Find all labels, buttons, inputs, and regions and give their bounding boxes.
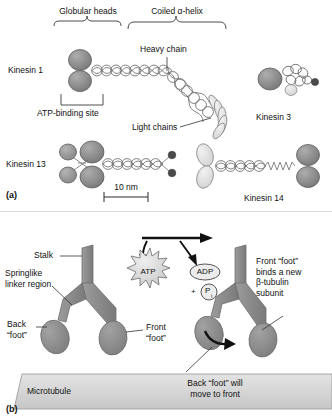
bracket-label-globular-heads: Globular heads: [48, 6, 128, 17]
kinesin-3-molecule: [258, 63, 319, 95]
annotation-springlike-linker-region: Springlike linker region: [5, 268, 51, 289]
kinesin-14-molecule: [194, 142, 320, 191]
reaction-arrow: [142, 233, 213, 243]
annotation-back-foot-will-move: Back “foot” will move to front: [160, 378, 270, 399]
scale-bar: [104, 192, 148, 202]
phosphate-prefix: +: [191, 287, 196, 298]
annotation-heavy-chain: Heavy chain: [140, 44, 187, 55]
kinesin-figure: Globular heads Coiled α-helix Kinesin 1 …: [0, 0, 332, 420]
molecule-label-kinesin-1: Kinesin 1: [8, 65, 43, 76]
annotation-front-foot-binds: Front “foot” binds a new β-tubulin subun…: [256, 256, 301, 298]
annotation-atp-binding-site: ATP-binding site: [37, 108, 99, 119]
phosphate-label: P: [205, 286, 210, 297]
panel-b-id: (b): [6, 404, 18, 414]
panel-divider: [0, 211, 332, 212]
molecule-label-kinesin-14: Kinesin 14: [244, 193, 284, 204]
kinesin-1-coiled-coil: [92, 65, 172, 76]
annotation-microtubule: Microtubule: [27, 386, 71, 397]
scale-bar-label: 10 nm: [104, 182, 148, 193]
annotation-light-chains: Light chains: [132, 122, 177, 133]
panel-a-id: (a): [6, 190, 17, 200]
bracket-coiled-helix: [128, 16, 226, 29]
annotation-back-foot: Back “foot”: [7, 319, 27, 340]
adp-out-arrow: [180, 241, 197, 266]
kinesin-walker-left: [37, 245, 129, 357]
annotation-stalk: Stalk: [34, 250, 53, 261]
figure-canvas: [0, 0, 332, 420]
phosphate-subscript: i: [211, 291, 212, 302]
adp-label: ADP: [192, 267, 218, 278]
bracket-globular-heads: [54, 16, 121, 26]
bracket-label-coiled-helix: Coiled α-helix: [132, 6, 222, 17]
atp-label: ATP: [135, 267, 161, 278]
annotation-front-foot: Front “foot”: [146, 322, 166, 343]
molecule-label-kinesin-13: Kinesin 13: [6, 159, 46, 170]
kinesin-13-molecule: [60, 141, 176, 202]
molecule-label-kinesin-3: Kinesin 3: [256, 112, 291, 123]
